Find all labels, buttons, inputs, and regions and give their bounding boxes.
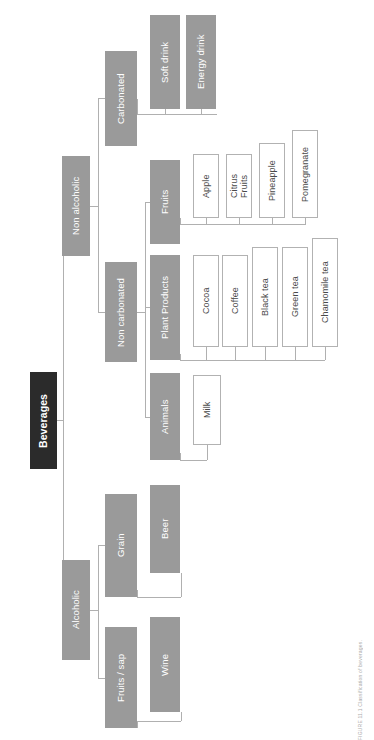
connector-alc-spine [98,545,99,678]
node-fruits[interactable]: Fruits [150,160,180,244]
connector-wine [181,712,182,721]
connector-nonalc-spine [98,98,99,312]
node-non-alcoholic[interactable]: Non alcoholic [62,156,90,256]
connector-coffee [235,347,236,360]
connector-alc-stub [90,610,98,611]
connector-animals-stub [180,453,181,460]
connector-chamomiletea [325,347,326,360]
node-non-carbonated[interactable]: Non carbonated [105,262,137,362]
connector-apple [206,218,207,224]
node-black-tea[interactable]: Black tea [252,247,278,347]
connector-carbonated-stub [137,99,138,107]
node-fruits-sap[interactable]: Fruits / sap [105,627,137,728]
connector-pineapple [272,218,273,224]
connector-carbonated-drop [137,107,138,114]
connector-fruitssap-bus [137,721,181,722]
node-carbonated[interactable]: Carbonated [105,51,137,146]
node-citrus-fruits[interactable]: Citrus Fruits [226,154,252,218]
connector-carbonated-link [137,114,165,115]
connector-blacktea [265,347,266,360]
connector-pomegranate [305,218,306,224]
connector-animals-bus [180,460,207,461]
node-apple[interactable]: Apple [193,154,219,218]
connector-nonalc-stub [90,206,98,207]
node-beer[interactable]: Beer [150,485,180,573]
connector-cocoa [206,347,207,360]
node-wine[interactable]: Wine [150,617,180,712]
connector-noncarb-stub [137,312,145,313]
node-pomegranate[interactable]: Pomegranate [292,130,318,218]
node-alcoholic[interactable]: Alcoholic [62,560,90,660]
node-grain[interactable]: Grain [105,494,137,597]
node-milk[interactable]: Milk [193,375,221,445]
node-energy-drink[interactable]: Energy drink [186,15,216,109]
node-soft-drink[interactable]: Soft drink [150,15,180,109]
node-animals[interactable]: Animals [150,373,180,460]
connector-carbonated-bar [165,114,217,115]
connector-fruits-bus [180,224,306,225]
node-beverages[interactable]: Beverages [30,372,57,469]
node-cocoa[interactable]: Cocoa [193,255,219,347]
connector-fruitssap-stub [137,721,138,728]
connector-plant-bus [180,360,325,361]
connector-grain-bus [137,597,181,598]
connector-softdrink [165,109,166,114]
node-coffee[interactable]: Coffee [222,255,248,347]
node-plant-products[interactable]: Plant Products [150,255,180,360]
connector-greentea [295,347,296,360]
connector-noncarb-spine [145,202,146,417]
connector-citrus [239,218,240,224]
node-pineapple[interactable]: Pineapple [259,143,285,218]
connector-milk [207,445,208,460]
node-green-tea[interactable]: Green tea [282,247,308,347]
node-chamomile-tea[interactable]: Chamomile tea [312,238,338,347]
connector-energydrink [201,109,202,114]
figure-caption: FIGURE 11.1 Classification of beverages. [357,640,363,740]
connector-beer [181,573,182,597]
connector-grain-stub [137,590,138,597]
